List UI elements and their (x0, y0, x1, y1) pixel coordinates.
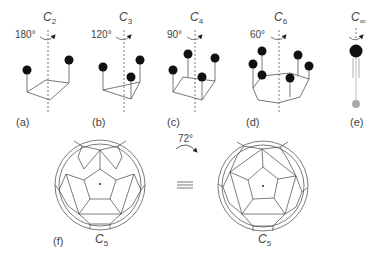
figure-drawing (0, 0, 378, 259)
axis-label-c2: C2 (43, 10, 56, 26)
panel-label-c: (c) (167, 116, 180, 128)
axis-label-c5-right: C5 (258, 232, 271, 248)
panel-label-e: (e) (350, 116, 363, 128)
rotation-angle-label: 72° (178, 133, 193, 144)
axis-label-c5-left: C5 (95, 232, 108, 248)
axis-label-c4: C4 (190, 10, 203, 26)
angle-label-a: 180° (15, 29, 36, 40)
panel-label-f: (f) (53, 235, 63, 247)
axis-label-c6: C6 (274, 10, 287, 26)
symmetry-figure: C2 C3 C4 C6 C∞ 180° 120° 90° 60° (a) (b)… (0, 0, 378, 259)
panel-label-d: (d) (246, 116, 259, 128)
axis-label-cinf: C∞ (351, 10, 365, 26)
panel-label-a: (a) (16, 116, 29, 128)
angle-label-b: 120° (91, 29, 112, 40)
panel-label-b: (b) (92, 116, 105, 128)
axis-label-c3: C3 (119, 10, 132, 26)
angle-label-d: 60° (250, 29, 265, 40)
angle-label-c: 90° (167, 29, 182, 40)
